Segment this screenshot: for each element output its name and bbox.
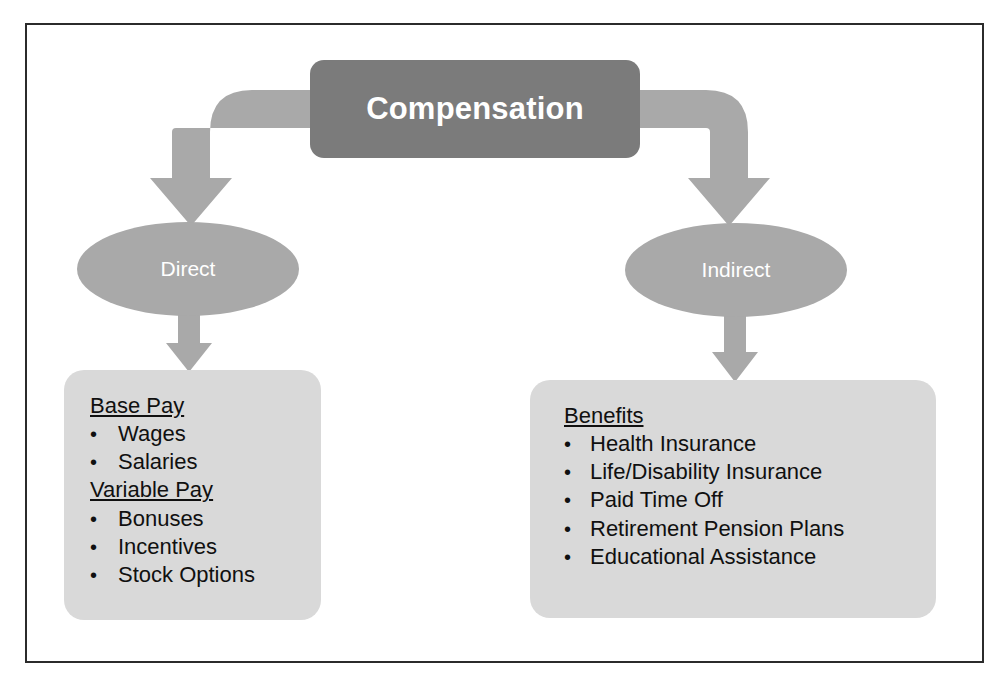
bullet-icon: • [564, 517, 582, 543]
node-indirect[interactable]: Indirect [625, 223, 847, 317]
list-item-label: Paid Time Off [582, 486, 723, 514]
bullet-icon: • [564, 432, 582, 458]
heading-base-pay: Base Pay [90, 392, 321, 420]
bullet-icon: • [90, 563, 110, 589]
bullet-icon: • [90, 450, 110, 476]
list-item-label: Life/Disability Insurance [582, 458, 822, 486]
list-item-label: Salaries [110, 448, 197, 476]
list-item: • Educational Assistance [564, 543, 936, 571]
list-item-label: Retirement Pension Plans [582, 515, 844, 543]
list-item: • Life/Disability Insurance [564, 458, 936, 486]
list-item: • Salaries [90, 448, 321, 476]
node-compensation[interactable]: Compensation [310, 60, 640, 158]
heading-variable-pay: Variable Pay [90, 476, 321, 504]
bullet-icon: • [90, 507, 110, 533]
heading-benefits: Benefits [564, 402, 936, 430]
list-item: • Paid Time Off [564, 486, 936, 514]
node-indirect-label: Indirect [702, 258, 771, 282]
list-item: • Incentives [90, 533, 321, 561]
list-item: • Stock Options [90, 561, 321, 589]
node-compensation-label: Compensation [366, 91, 584, 127]
list-item: • Bonuses [90, 505, 321, 533]
list-item-label: Stock Options [110, 561, 255, 589]
right-box-content: Benefits • Health Insurance • Life/Disab… [530, 402, 936, 571]
box-indirect-details[interactable]: Benefits • Health Insurance • Life/Disab… [530, 380, 936, 618]
list-item: • Health Insurance [564, 430, 936, 458]
bullet-icon: • [564, 488, 582, 514]
bullet-icon: • [564, 545, 582, 571]
list-item-label: Wages [110, 420, 186, 448]
list-item-label: Incentives [110, 533, 217, 561]
list-item-label: Educational Assistance [582, 543, 816, 571]
diagram-root: Compensation Direct Indirect Base Pay • … [0, 0, 1004, 692]
box-direct-details[interactable]: Base Pay • Wages • Salaries Variable Pay… [64, 370, 321, 620]
list-item-label: Bonuses [110, 505, 204, 533]
node-direct[interactable]: Direct [77, 222, 299, 316]
bullet-icon: • [90, 422, 110, 448]
bullet-icon: • [90, 535, 110, 561]
list-item: • Wages [90, 420, 321, 448]
node-direct-label: Direct [161, 257, 216, 281]
bullet-icon: • [564, 460, 582, 486]
left-box-content: Base Pay • Wages • Salaries Variable Pay… [64, 392, 321, 589]
list-item: • Retirement Pension Plans [564, 515, 936, 543]
list-item-label: Health Insurance [582, 430, 756, 458]
